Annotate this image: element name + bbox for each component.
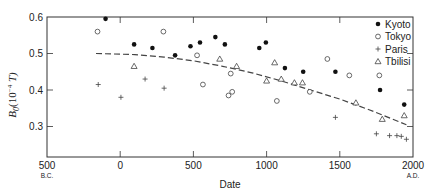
filled-circle-marker <box>223 42 228 47</box>
svg-text:B0(10−4 T): B0(10−4 T) <box>6 72 21 118</box>
open-circle-marker <box>377 73 382 78</box>
plus-marker <box>162 86 167 91</box>
plot-border <box>47 17 413 157</box>
open-circle-marker <box>274 99 279 104</box>
filled-circle-marker <box>378 88 383 93</box>
filled-circle-marker <box>264 40 269 45</box>
filled-circle-marker <box>301 69 306 74</box>
magnetic-field-chart: 500B.C.0500100015002000A.D.0.60.50.40.3 … <box>0 0 431 195</box>
open-circle-marker <box>230 89 235 94</box>
legend-item-tbilisi: Tbilisi <box>375 56 411 67</box>
x-tick-label: 1000 <box>255 160 278 171</box>
x-tick-label: 2000 <box>402 160 425 171</box>
open-circle-marker <box>347 73 352 78</box>
y-tick-label: 0.5 <box>29 48 43 59</box>
dashed-trend-line <box>96 54 406 125</box>
open-circle-marker <box>376 34 381 39</box>
open-circle-marker <box>201 82 206 87</box>
filled-circle-marker <box>198 40 203 45</box>
plus-marker <box>374 131 379 136</box>
filled-circle-marker <box>257 46 262 51</box>
y-tick-label: 0.4 <box>29 85 43 96</box>
plus-marker <box>394 133 399 138</box>
open-triangle-marker <box>272 60 278 65</box>
open-triangle-marker <box>278 76 284 81</box>
legend-label: Paris <box>385 44 408 55</box>
legend-label: Tokyo <box>385 31 412 42</box>
series-kyoto <box>103 17 406 107</box>
series-paris <box>96 77 409 142</box>
open-triangle-marker <box>401 113 407 118</box>
filled-circle-marker <box>188 44 193 49</box>
open-circle-marker <box>161 29 166 34</box>
filled-circle-marker <box>150 46 155 51</box>
legend-item-tokyo: Tokyo <box>376 31 412 42</box>
series-tbilisi <box>131 56 407 121</box>
y-tick-label: 0.6 <box>29 12 43 23</box>
filled-circle-marker <box>173 53 178 58</box>
filled-circle-marker <box>213 35 218 40</box>
plus-marker <box>399 134 404 139</box>
x-tick-sublabel: A.D. <box>407 172 420 179</box>
plus-marker <box>387 133 392 138</box>
open-circle-marker <box>325 57 330 62</box>
plus-marker <box>376 47 381 52</box>
x-tick-label: 1500 <box>329 160 352 171</box>
open-triangle-marker <box>264 78 270 83</box>
x-tick-sublabel: B.C. <box>41 172 54 179</box>
y-axis-label: B0(10−4 T) <box>6 72 21 118</box>
filled-circle-marker <box>283 66 288 71</box>
plus-marker <box>118 95 123 100</box>
plus-marker <box>143 77 148 82</box>
open-triangle-marker <box>291 80 297 85</box>
filled-circle-marker <box>103 17 108 22</box>
open-circle-marker <box>228 71 233 76</box>
open-triangle-marker <box>353 100 359 105</box>
legend-item-kyoto: Kyoto <box>376 19 411 30</box>
trend-line <box>96 54 406 125</box>
x-tick-label: 500 <box>39 160 56 171</box>
x-tick-label: 0 <box>117 160 123 171</box>
open-triangle-marker <box>375 59 381 64</box>
filled-circle-marker <box>132 42 137 47</box>
open-triangle-marker <box>379 116 385 121</box>
open-triangle-marker <box>299 80 305 85</box>
open-circle-marker <box>95 29 100 34</box>
legend-label: Tbilisi <box>385 56 411 67</box>
plus-marker <box>96 82 101 87</box>
legend-item-paris: Paris <box>376 44 408 55</box>
open-triangle-marker <box>131 63 137 68</box>
open-triangle-marker <box>217 56 223 61</box>
filled-circle-marker <box>376 22 381 27</box>
plus-marker <box>404 137 409 142</box>
filled-circle-marker <box>333 69 338 74</box>
open-circle-marker <box>307 89 312 94</box>
data-points <box>95 17 409 142</box>
legend-label: Kyoto <box>385 19 411 30</box>
x-axis-label: Date <box>219 179 241 190</box>
y-tick-label: 0.3 <box>29 121 43 132</box>
plot-frame <box>47 17 413 157</box>
open-triangle-marker <box>234 63 240 68</box>
legend: KyotoTokyoParisTbilisi <box>375 19 412 68</box>
filled-circle-marker <box>402 102 407 107</box>
plus-marker <box>333 115 338 120</box>
open-circle-marker <box>195 53 200 58</box>
x-tick-label: 500 <box>185 160 202 171</box>
